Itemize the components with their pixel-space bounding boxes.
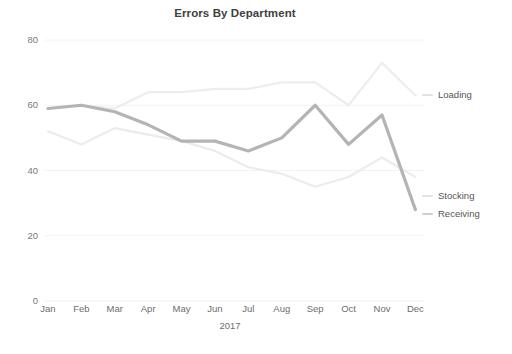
x-axis-tick-aug: Aug — [265, 303, 299, 314]
y-axis-tick-80: 80 — [8, 34, 38, 45]
x-axis-tick-mar: Mar — [98, 303, 132, 314]
series-lines — [48, 63, 415, 210]
y-axis-tick-40: 40 — [8, 165, 38, 176]
series-line-loading — [48, 63, 415, 109]
x-axis-tick-sep: Sep — [298, 303, 332, 314]
series-line-receiving — [48, 105, 415, 209]
legend-item-stocking[interactable]: Stocking — [422, 190, 474, 201]
legend-label: Receiving — [438, 208, 480, 219]
legend-label: Loading — [438, 89, 472, 100]
legend-item-loading[interactable]: Loading — [422, 89, 472, 100]
legend-swatch-icon — [422, 94, 433, 96]
legend-swatch-icon — [422, 195, 433, 197]
x-axis-tick-apr: Apr — [131, 303, 165, 314]
legend-label: Stocking — [438, 190, 474, 201]
legend-swatch-icon — [422, 213, 433, 215]
x-axis-tick-jul: Jul — [231, 303, 265, 314]
x-axis-tick-oct: Oct — [332, 303, 366, 314]
chart-container: Errors By Department 020406080 JanFebMar… — [0, 0, 512, 354]
legend-item-receiving[interactable]: Receiving — [422, 208, 480, 219]
x-axis-tick-jan: Jan — [31, 303, 65, 314]
x-axis-tick-feb: Feb — [64, 303, 98, 314]
series-line-stocking — [48, 128, 415, 187]
x-axis-tick-jun: Jun — [198, 303, 232, 314]
y-axis-tick-60: 60 — [8, 99, 38, 110]
line-chart-plot — [0, 0, 512, 354]
x-axis-tick-nov: Nov — [365, 303, 399, 314]
x-axis-tick-dec: Dec — [398, 303, 432, 314]
y-axis-tick-20: 20 — [8, 230, 38, 241]
x-axis-tick-may: May — [165, 303, 199, 314]
x-axis-title: 2017 — [0, 320, 460, 331]
